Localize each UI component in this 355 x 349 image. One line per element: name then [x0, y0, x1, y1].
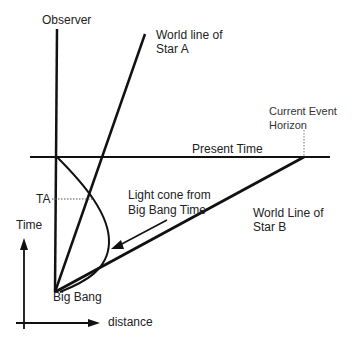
distance-axis-arrowhead-icon	[88, 319, 100, 327]
observer-label: Observer	[42, 13, 91, 27]
light-cone-curve	[57, 157, 109, 292]
distance-axis-label: distance	[108, 315, 153, 329]
arrowhead-icon	[111, 240, 124, 249]
star-a-label-line1: World line of	[156, 28, 222, 42]
light-cone-label-line1: Light cone from	[128, 188, 211, 202]
event-horizon-label-line2: Horizon	[269, 119, 307, 132]
spacetime-diagram: Observer World line of Star A Current Ev…	[0, 0, 355, 349]
light-cone-label-line2: Big Bang Time	[128, 203, 206, 217]
observer-world-line	[55, 29, 57, 292]
star-b-label-line2: Star B	[253, 220, 286, 234]
big-bang-label: Big Bang	[53, 290, 102, 304]
star-a-world-line	[55, 34, 145, 292]
time-axis-arrowhead-icon	[20, 238, 28, 250]
event-horizon-label-line1: Current Event	[269, 105, 337, 118]
time-axis-label: Time	[16, 218, 42, 232]
light-cone-pointer-arrow	[118, 220, 167, 246]
present-time-label: Present Time	[192, 142, 263, 156]
star-a-label-line2: Star A	[156, 42, 189, 56]
star-b-label-line1: World Line of	[253, 206, 323, 220]
ta-label: TA	[36, 192, 50, 206]
